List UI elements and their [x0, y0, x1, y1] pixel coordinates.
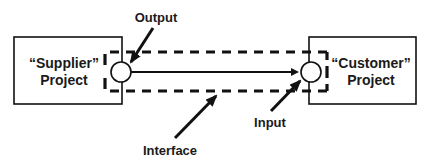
input-pointer-arrow [271, 81, 300, 111]
supplier-project-box: “Supplier” Project [14, 37, 122, 104]
output-label: Output [135, 10, 178, 25]
supplier-label-line2: Project [40, 72, 88, 88]
input-label: Input [254, 115, 286, 130]
output-pointer-arrow [131, 28, 153, 62]
customer-project-box: “Customer” Project [309, 37, 416, 104]
supplier-label-line1: “Supplier” [29, 55, 99, 71]
interface-label: Interface [143, 143, 197, 158]
customer-label-line1: “Customer” [331, 55, 410, 71]
output-port [111, 62, 131, 82]
interface-pointer-arrow [175, 96, 216, 138]
input-port [301, 62, 321, 82]
interface-diagram: “Supplier” Project “Customer” Project Ou… [0, 0, 432, 160]
customer-label-line2: Project [347, 72, 395, 88]
